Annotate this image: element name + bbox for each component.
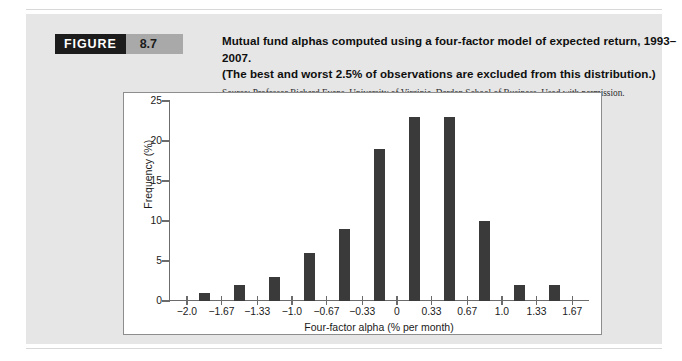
y-axis-line	[169, 101, 170, 301]
histogram-bar	[409, 117, 420, 301]
caption-line-1: Mutual fund alphas computed using a four…	[222, 33, 682, 66]
figure-page: FIGURE 8.7 Mutual fund alphas computed u…	[0, 0, 682, 361]
x-tick	[291, 296, 292, 305]
histogram-bar	[339, 229, 350, 301]
x-tick	[396, 296, 397, 305]
page-rule-top	[26, 9, 662, 10]
y-axis-title: Frequency (%)	[143, 104, 154, 244]
x-tick	[257, 296, 258, 305]
figure-tag-word: FIGURE	[55, 34, 126, 54]
histogram-bar	[374, 149, 385, 301]
x-tick	[186, 296, 187, 305]
figure-caption: Mutual fund alphas computed using a four…	[222, 33, 682, 99]
y-tick	[162, 180, 170, 181]
histogram-bar	[304, 253, 315, 301]
figure-tag: FIGURE 8.7	[55, 34, 183, 54]
histogram-bar	[234, 285, 245, 301]
y-tick	[162, 300, 170, 301]
histogram-bar	[479, 221, 490, 301]
histogram-bar	[444, 117, 455, 301]
y-tick-label: 0	[132, 296, 162, 306]
y-tick	[162, 220, 170, 221]
x-axis-title: Four-factor alpha (% per month)	[169, 322, 589, 333]
chart-card: 0510152025 −2.0−1.67−1.33−1.0−0.67−0.330…	[123, 92, 602, 335]
x-tick-label: 1.67	[550, 307, 594, 317]
histogram-bar	[199, 293, 210, 301]
histogram-bar	[269, 277, 280, 301]
x-tick	[536, 296, 537, 305]
y-tick	[162, 140, 170, 141]
y-tick-label: 5	[132, 256, 162, 266]
x-tick	[431, 296, 432, 305]
y-tick	[162, 260, 170, 261]
histogram-bar	[514, 285, 525, 301]
figure-panel: FIGURE 8.7 Mutual fund alphas computed u…	[26, 14, 662, 344]
x-tick	[501, 296, 502, 305]
y-tick	[162, 100, 170, 101]
x-tick	[467, 296, 468, 305]
x-tick	[362, 296, 363, 305]
x-tick	[221, 296, 222, 305]
x-tick	[326, 296, 327, 305]
caption-line-2: (The best and worst 2.5% of observations…	[222, 66, 682, 83]
figure-tag-number: 8.7	[126, 34, 183, 54]
x-tick	[572, 296, 573, 305]
histogram-plot: 0510152025 −2.0−1.67−1.33−1.0−0.67−0.330…	[124, 93, 603, 336]
histogram-bar	[549, 285, 560, 301]
page-rule-bottom	[26, 348, 662, 349]
